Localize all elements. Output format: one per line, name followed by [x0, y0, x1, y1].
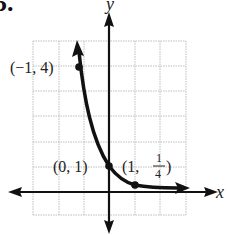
point-neg1-4 [75, 63, 83, 71]
y-axis [104, 12, 114, 234]
y-axis-down-arrow-icon [104, 220, 114, 234]
label-point-1-quarter-prefix: (1, [122, 158, 139, 176]
point-0-1 [105, 162, 113, 170]
y-axis-label: y [104, 0, 114, 14]
graph: (−1, 4) (0, 1) (1, 1 4 ) x y [0, 0, 227, 235]
x-axis-left-arrow-icon [8, 187, 22, 197]
label-point-neg1-4: (−1, 4) [10, 59, 54, 77]
label-point-1-quarter-den: 4 [155, 167, 161, 181]
label-point-0-1: (0, 1) [53, 158, 88, 176]
label-point-1-quarter-suffix: ) [166, 158, 171, 176]
point-1-quarter [131, 181, 139, 189]
label-point-1-quarter-num: 1 [156, 151, 162, 165]
y-axis-up-arrow-icon [104, 12, 114, 27]
x-axis-label: x [215, 182, 224, 202]
